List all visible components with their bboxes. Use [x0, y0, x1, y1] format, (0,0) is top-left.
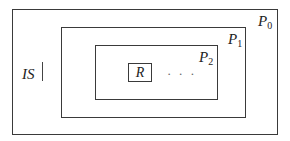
is-label: IS: [22, 67, 35, 82]
is-bar: [42, 62, 43, 81]
p1-label: P1: [228, 32, 242, 49]
r-box: R: [128, 63, 152, 82]
r-label: R: [136, 65, 145, 81]
p0-label: P0: [258, 14, 272, 31]
p2-label: P2: [199, 50, 213, 67]
ellipsis: · · ·: [167, 66, 197, 82]
